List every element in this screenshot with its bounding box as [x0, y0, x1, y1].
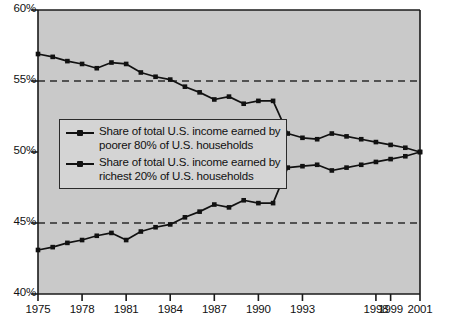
data-point	[374, 140, 379, 145]
data-point	[256, 201, 261, 206]
data-point	[359, 137, 364, 142]
data-point	[388, 157, 393, 162]
y-axis-tick-label: 50%	[0, 144, 36, 156]
data-point	[139, 70, 144, 75]
legend-item-label: Share of total U.S. income earned bypoor…	[99, 125, 280, 152]
data-point	[36, 248, 41, 253]
x-axis-tick-label: 1975	[18, 303, 58, 315]
data-point	[124, 238, 129, 243]
legend-label-line-1: Share of total U.S. income earned by	[99, 156, 280, 170]
data-point	[241, 198, 246, 203]
x-axis-tick-label: 1993	[282, 303, 322, 315]
data-point	[418, 150, 423, 155]
legend-label-line-2: richest 20% of U.S. households	[99, 170, 280, 184]
data-point	[183, 215, 188, 220]
legend-item-label: Share of total U.S. income earned byrich…	[99, 156, 280, 183]
legend-item-richest-20: Share of total U.S. income earned byrich…	[65, 156, 280, 183]
legend-label-line-2: poorer 80% of U.S. households	[99, 139, 280, 153]
y-axis-tick-label: 40%	[0, 286, 36, 298]
data-point	[94, 66, 99, 71]
data-point	[330, 168, 335, 173]
data-point	[388, 143, 393, 148]
x-axis-tick-label: 2001	[400, 303, 440, 315]
data-point	[197, 209, 202, 214]
data-point	[197, 90, 202, 95]
data-point	[50, 245, 55, 250]
data-point	[344, 134, 349, 139]
x-axis-tick-label: 1990	[238, 303, 278, 315]
data-point	[227, 205, 232, 210]
x-axis-tick-label: 1984	[150, 303, 190, 315]
data-point	[300, 136, 305, 141]
data-point	[36, 52, 41, 57]
data-point	[50, 55, 55, 60]
data-point	[403, 154, 408, 159]
y-axis-tick-label: 55%	[0, 73, 36, 85]
chart-legend: Share of total U.S. income earned bypoor…	[59, 119, 287, 189]
data-point	[139, 229, 144, 234]
data-point	[241, 101, 246, 106]
data-point	[344, 165, 349, 170]
data-point	[256, 99, 261, 104]
data-point	[168, 222, 173, 227]
data-point	[315, 162, 320, 167]
data-point	[227, 94, 232, 99]
legend-item-poorer-80: Share of total U.S. income earned bypoor…	[65, 125, 280, 152]
data-point	[359, 162, 364, 167]
data-point	[168, 77, 173, 82]
data-point	[109, 60, 114, 65]
data-point	[80, 62, 85, 67]
data-point	[374, 160, 379, 165]
data-point	[403, 145, 408, 150]
data-point	[65, 59, 70, 64]
data-point	[271, 201, 276, 206]
data-point	[271, 99, 276, 104]
data-point	[80, 238, 85, 243]
data-point	[94, 233, 99, 238]
y-axis-tick-label: 60%	[0, 2, 36, 14]
x-axis-tick-label: 1978	[62, 303, 102, 315]
y-axis-tick-label: 45%	[0, 215, 36, 227]
data-point	[109, 231, 114, 236]
data-point	[153, 74, 158, 79]
legend-line-marker-icon	[65, 126, 95, 140]
data-point	[212, 202, 217, 207]
data-point	[124, 62, 129, 67]
data-point	[330, 131, 335, 136]
data-point	[300, 164, 305, 169]
data-point	[153, 225, 158, 230]
data-point	[315, 137, 320, 142]
x-axis-tick-label: 1987	[194, 303, 234, 315]
data-point	[65, 241, 70, 246]
legend-line-marker-icon	[65, 157, 95, 171]
data-point	[183, 84, 188, 89]
legend-label-line-1: Share of total U.S. income earned by	[99, 125, 280, 139]
income-share-line-chart: 60%55%50%45%40%1975197819811984198719901…	[0, 0, 450, 331]
data-point	[212, 97, 217, 102]
x-axis-tick-label: 1981	[106, 303, 146, 315]
